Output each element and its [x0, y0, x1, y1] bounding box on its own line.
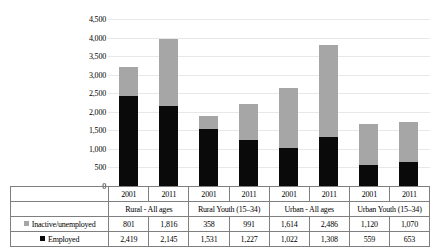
- bar-column: [359, 124, 378, 186]
- bar-segment-inactive-unemployed: [199, 116, 218, 129]
- legend-item[interactable]: Employed: [11, 232, 109, 247]
- bar-column: [239, 104, 258, 186]
- bar-segment-employed: [399, 162, 418, 186]
- category-label-year: 2011: [389, 187, 429, 202]
- table-cell-value: 1,614: [269, 217, 309, 232]
- bar-column: [119, 67, 138, 186]
- category-label-year: 2001: [189, 187, 229, 202]
- bar-segment-inactive-unemployed: [239, 104, 258, 141]
- bar-segment-employed: [239, 140, 258, 186]
- bar-column: [199, 116, 218, 186]
- category-label-group: Urban Youth (15–34): [349, 202, 429, 217]
- black-square-icon: [40, 236, 45, 241]
- plot-area: [108, 19, 430, 186]
- table-cell-value: 653: [389, 232, 429, 247]
- gridline: [108, 19, 430, 20]
- y-axis-tick-label: 2,000: [89, 107, 106, 116]
- gridline: [108, 167, 430, 168]
- y-axis-tick-label: 2,500: [89, 89, 106, 98]
- bar-column: [399, 122, 418, 186]
- category-label-year: 2001: [349, 187, 389, 202]
- table-cell-value: 801: [109, 217, 149, 232]
- bar-column: [159, 39, 178, 186]
- bar-segment-inactive-unemployed: [319, 45, 338, 137]
- table-cell-value: 559: [349, 232, 389, 247]
- table-cell-value: 1,022: [269, 232, 309, 247]
- table-cell-value: 1,531: [189, 232, 229, 247]
- gridline: [108, 56, 430, 57]
- y-axis-tick-label: 4,500: [89, 15, 106, 24]
- table-cell-value: 1,308: [309, 232, 349, 247]
- table-row: Inactive/unemployed8011,8163589911,6142,…: [11, 217, 430, 232]
- category-label-year: 2011: [149, 187, 189, 202]
- bar-segment-employed: [199, 129, 218, 186]
- y-axis-tick-label: 3,500: [89, 52, 106, 61]
- table-cell-value: 991: [229, 217, 269, 232]
- category-label-year: 2001: [269, 187, 309, 202]
- table-spacer-cell: [11, 202, 109, 217]
- y-axis-tick-label: 1,500: [89, 126, 106, 135]
- stacked-bar-chart: 4,5004,0003,5003,0002,5002,0001,5001,000…: [0, 0, 447, 249]
- bar-segment-employed: [119, 96, 138, 186]
- bar-column: [279, 88, 298, 186]
- bar-segment-inactive-unemployed: [119, 67, 138, 97]
- gridline: [108, 75, 430, 76]
- table-cell-value: 1,120: [349, 217, 389, 232]
- bar-segment-employed: [279, 148, 298, 186]
- table-cell-value: 1,816: [149, 217, 189, 232]
- table-cell-value: 1,227: [229, 232, 269, 247]
- y-axis-tick-label: 4,000: [89, 33, 106, 42]
- table-row-groups: Rural - All agesRural Youth (15–34)Urban…: [11, 202, 430, 217]
- y-axis: 4,5004,0003,5003,0002,5002,0001,5001,000…: [80, 19, 106, 186]
- gridline: [108, 112, 430, 113]
- category-label-year: 2011: [229, 187, 269, 202]
- bar-column: [319, 45, 338, 186]
- legend-item[interactable]: Inactive/unemployed: [11, 217, 109, 232]
- category-label-group: Rural - All ages: [109, 202, 189, 217]
- table-cell-value: 358: [189, 217, 229, 232]
- bar-segment-inactive-unemployed: [159, 39, 178, 106]
- table-cell-value: 2,486: [309, 217, 349, 232]
- legend-item-label: Inactive/unemployed: [32, 220, 96, 229]
- bar-segment-inactive-unemployed: [359, 124, 378, 166]
- gridline: [108, 93, 430, 94]
- category-label-group: Urban - All ages: [269, 202, 349, 217]
- gridline: [108, 130, 430, 131]
- bar-segment-inactive-unemployed: [279, 88, 298, 148]
- table-cell-value: 1,070: [389, 217, 429, 232]
- gridline: [108, 38, 430, 39]
- table-cell-value: 2,145: [149, 232, 189, 247]
- category-label-group: Rural Youth (15–34): [189, 202, 269, 217]
- category-label-year: 2011: [309, 187, 349, 202]
- y-axis-tick-label: 500: [95, 163, 106, 172]
- data-table: 20012011200120112001201120012011Rural - …: [10, 186, 430, 247]
- gray-square-icon: [24, 221, 29, 226]
- bar-segment-employed: [319, 137, 338, 186]
- table-cell-value: 2,419: [109, 232, 149, 247]
- bar-segment-employed: [359, 165, 378, 186]
- table-spacer-cell: [11, 187, 109, 202]
- y-axis-tick-label: 3,000: [89, 70, 106, 79]
- bar-segment-inactive-unemployed: [399, 122, 418, 162]
- legend-item-label: Employed: [48, 235, 79, 244]
- table-row: Employed2,4192,1451,5311,2271,0221,30855…: [11, 232, 430, 247]
- y-axis-tick-label: 1,000: [89, 144, 106, 153]
- category-label-year: 2001: [109, 187, 149, 202]
- table-row-years: 20012011200120112001201120012011: [11, 187, 430, 202]
- bar-segment-employed: [159, 106, 178, 186]
- gridline: [108, 149, 430, 150]
